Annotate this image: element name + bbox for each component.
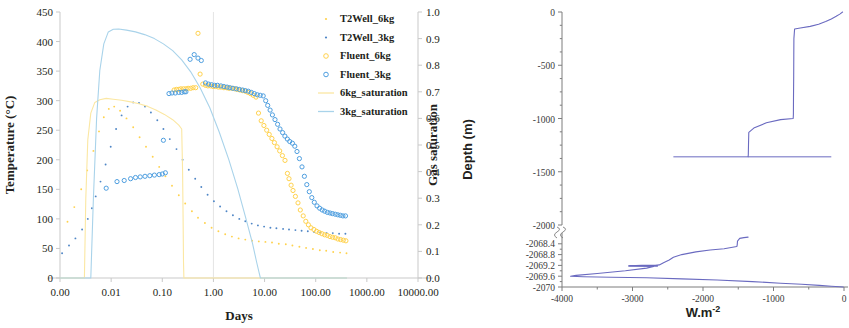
y-tick-label-150: 150 — [37, 183, 54, 195]
y-tick-label-250: 250 — [37, 124, 54, 136]
series-marker — [188, 57, 192, 61]
series-dot — [156, 119, 158, 121]
series-marker — [298, 208, 302, 212]
y-tick-label-100: 100 — [37, 213, 54, 225]
series-marker — [143, 174, 147, 178]
series-dot — [115, 128, 117, 130]
series-dot — [307, 230, 309, 232]
series-Fluent_6kg — [172, 31, 348, 243]
depth-tick-label-0: 0 — [550, 8, 555, 18]
series-marker — [270, 136, 274, 140]
series-dot — [332, 251, 334, 253]
flux-axis-title-exponent: -2 — [712, 304, 720, 314]
y2-tick-label-0: 0.00 — [426, 272, 440, 284]
series-dot — [258, 240, 260, 242]
series-line-6kg_saturation — [60, 98, 347, 278]
series-dot — [338, 233, 340, 235]
x-tick-label-6: 1000.00 — [349, 286, 385, 298]
series-dot — [74, 237, 76, 239]
series-dot — [81, 229, 83, 231]
series-dot — [126, 117, 128, 119]
series-dot — [271, 242, 273, 244]
series-dot — [264, 241, 266, 243]
series-dot — [312, 248, 314, 250]
series-marker — [268, 108, 272, 112]
series-marker — [307, 190, 311, 194]
legend-label-Fluent_3kg: Fluent_3kg — [340, 69, 392, 80]
depth-tick-label--2068.8: -2068.8 — [526, 250, 556, 260]
series-6kg_saturation — [60, 98, 347, 278]
series-dot — [325, 250, 327, 252]
series-dot — [344, 233, 346, 235]
series-dot — [285, 243, 287, 245]
series-dot — [204, 222, 206, 224]
heatflux-chart-svg: 0-500-1000-1500-2000-2068.4-2068.8-2069.… — [440, 0, 849, 328]
series-dot — [176, 148, 178, 150]
series-dot — [319, 249, 321, 251]
series-dot — [231, 236, 233, 238]
legend-swatch-circle — [324, 54, 329, 59]
y-tick-label-300: 300 — [37, 95, 54, 107]
series-dot — [171, 185, 173, 187]
series-marker — [262, 123, 266, 127]
x-tick-label-2: 0.10 — [153, 286, 173, 298]
depth-tick-label--2069.2: -2069.2 — [526, 261, 556, 271]
series-dot — [132, 126, 134, 128]
series-dot — [339, 252, 341, 254]
series-marker — [272, 141, 276, 145]
series-dot — [191, 210, 193, 212]
series-marker — [283, 158, 287, 162]
heatflux-curve-lower — [571, 237, 844, 287]
series-dot — [113, 106, 115, 108]
series-marker — [296, 201, 300, 205]
x-axis-title: Days — [225, 308, 252, 323]
series-marker — [256, 111, 260, 115]
flux-tick-label--2000: -2000 — [692, 294, 714, 304]
flux-tick-label--1000: -1000 — [762, 294, 784, 304]
x-tick-label-7: 10000.00 — [397, 286, 439, 298]
series-dot — [244, 239, 246, 241]
series-dot — [301, 230, 303, 232]
temperature-chart-svg: 0501001502002503003504004500.000.100.200… — [0, 0, 440, 328]
y-tick-label-0: 0 — [48, 272, 54, 284]
y2-tick-label-3: 0.30 — [426, 192, 440, 204]
left-chart-group: 0501001502002503003504004500.000.100.200… — [2, 6, 440, 323]
series-dot — [224, 233, 226, 235]
axis-break-marker-2 — [561, 227, 566, 238]
series-dot — [197, 217, 199, 219]
series-dot — [305, 247, 307, 249]
x-tick-label-1: 0.01 — [102, 286, 121, 298]
series-marker — [264, 99, 268, 103]
flux-tick-label-0: 0 — [842, 294, 847, 304]
series-dot — [291, 245, 293, 247]
series-marker — [300, 165, 304, 169]
series-dot — [238, 218, 240, 220]
legend-swatch-dot — [325, 18, 327, 20]
series-dot — [119, 110, 121, 112]
legend-swatch-circle — [324, 72, 329, 77]
series-dot — [92, 150, 94, 152]
series-marker — [302, 174, 306, 178]
series-dot — [67, 221, 69, 223]
flux-axis-title-base: W.m — [686, 305, 713, 320]
y2-tick-label-8: 0.80 — [426, 59, 440, 71]
series-dot — [95, 195, 97, 197]
right-chart-group: 0-500-1000-1500-2000-2068.4-2068.8-2069.… — [460, 8, 848, 320]
legend-label-T2Well_6kg: T2Well_6kg — [340, 13, 395, 24]
series-marker — [293, 194, 297, 198]
flux-tick-label--4000: -4000 — [551, 294, 573, 304]
series-marker — [289, 183, 293, 187]
series-marker — [265, 128, 269, 132]
series-marker — [285, 171, 289, 175]
series-marker — [293, 144, 297, 148]
series-dot — [211, 227, 213, 229]
y-tick-label-450: 450 — [37, 6, 54, 18]
legend-label-6kg_saturation: 6kg_saturation — [340, 87, 408, 98]
series-marker — [192, 53, 196, 57]
series-dot — [98, 130, 100, 132]
series-marker — [266, 103, 270, 107]
series-marker — [270, 113, 274, 117]
series-dot — [169, 138, 171, 140]
legend-label-3kg_saturation: 3kg_saturation — [340, 106, 408, 117]
series-dot — [213, 200, 215, 202]
